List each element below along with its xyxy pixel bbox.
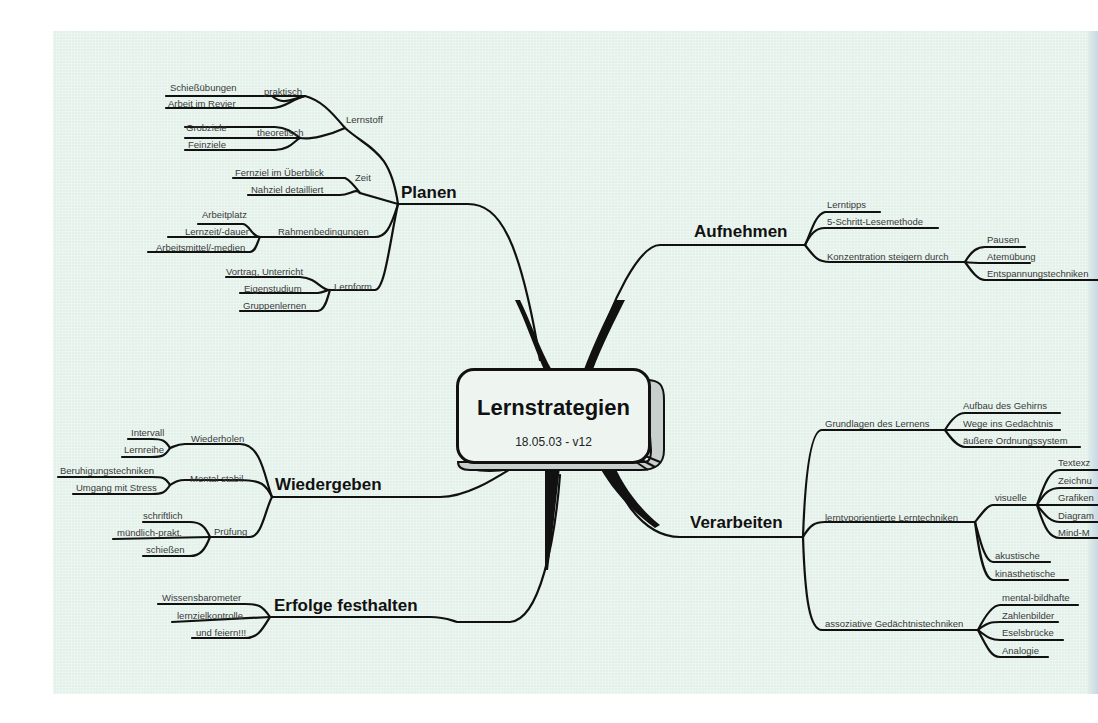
center-node[interactable]: Lernstrategien 18.05.03 - v12 [456,368,651,464]
leaf-und-feiern[interactable]: und feiern!!! [196,627,246,638]
leaf-arbeitsmittel[interactable]: Arbeitsmittel/-medien [156,242,245,253]
node-praktisch[interactable]: praktisch [264,86,302,97]
branch-wiedergeben[interactable]: Wiedergeben [275,475,382,495]
node-mental-stabil[interactable]: Mental stabil [190,473,243,484]
leaf-grobziele[interactable]: Grobziele [186,122,227,133]
leaf-kinaesthetische[interactable]: kinästhetische [995,568,1055,579]
leaf-lernzeit[interactable]: Lernzeit/-dauer [185,226,249,237]
leaf-mental-bildhafte[interactable]: mental-bildhafte [1002,592,1070,603]
leaf-pausen[interactable]: Pausen [987,234,1019,245]
leaf-muendlich[interactable]: mündlich-prakt. [117,527,182,538]
leaf-feinziele[interactable]: Feinziele [188,139,226,150]
leaf-atemuebung[interactable]: Atemübung [987,251,1036,262]
leaf-5-schritt[interactable]: 5-Schritt-Lesemethode [827,216,923,227]
branch-aufnehmen[interactable]: Aufnehmen [694,222,788,242]
leaf-fernziel[interactable]: Fernziel im Überblick [235,167,324,178]
leaf-arbeitplatz[interactable]: Arbeitplatz [202,209,247,220]
leaf-wissensbarometer[interactable]: Wissensbarometer [162,592,241,603]
leaf-schriftlich[interactable]: schriftlich [143,510,183,521]
leaf-lerntipps[interactable]: Lerntipps [827,199,866,210]
node-assoziativ[interactable]: assoziative Gedächtnistechniken [825,618,963,629]
branch-planen[interactable]: Planen [401,183,457,203]
node-zeit[interactable]: Zeit [355,172,371,183]
leaf-zeichnungen[interactable]: Zeichnu [1058,475,1092,486]
center-title: Lernstrategien [459,395,648,421]
branch-verarbeiten[interactable]: Verarbeiten [690,513,783,533]
node-theoretisch[interactable]: theoretisch [257,127,303,138]
leaf-wege-gedaechtnis[interactable]: Wege ins Gedächtnis [963,418,1053,429]
node-lernstoff[interactable]: Lernstoff [346,114,383,125]
node-grundlagen[interactable]: Grundlagen des Lernens [825,418,930,429]
node-pruefung[interactable]: Prüfung [214,526,247,537]
node-lerntyp[interactable]: lerntyporientierte Lerntechniken [825,512,958,523]
leaf-ordnungssystem[interactable]: äußere Ordnungssystem [963,435,1068,446]
leaf-arbeit-im-revier[interactable]: Arbeit im Revier [168,98,236,109]
leaf-schiessuebungen[interactable]: Schießübungen [170,82,237,93]
leaf-mind-maps[interactable]: Mind-M [1058,527,1090,538]
leaf-umgang-stress[interactable]: Umgang mit Stress [76,482,157,493]
node-konzentration[interactable]: Konzentration steigern durch [827,251,948,262]
node-lernform[interactable]: Lernform [334,281,372,292]
leaf-eselsbruecke[interactable]: Eselsbrücke [1002,627,1054,638]
leaf-beruhigung[interactable]: Beruhigungstechniken [60,465,154,476]
leaf-akustische[interactable]: akustische [995,550,1040,561]
leaf-intervall[interactable]: Intervall [131,427,164,438]
node-wiederholen[interactable]: Wiederholen [191,433,244,444]
center-subtitle: 18.05.03 - v12 [459,435,648,449]
leaf-textexzerpt[interactable]: Textexz [1058,457,1090,468]
leaf-zahlenbilder[interactable]: Zahlenbilder [1002,610,1054,621]
leaf-diagramme[interactable]: Diagram [1058,510,1094,521]
leaf-analogie[interactable]: Analogie [1002,645,1039,656]
mindmap-connectors [0,0,1098,723]
branch-erfolge-festhalten[interactable]: Erfolge festhalten [274,596,418,616]
leaf-lernreihe[interactable]: Lernreihe [124,444,164,455]
leaf-aufbau-gehirn[interactable]: Aufbau des Gehirns [963,400,1047,411]
node-visuelle[interactable]: visuelle [995,492,1027,503]
leaf-lernzielkontrolle[interactable]: lernzielkontrolle [177,610,243,621]
leaf-gruppenlernen[interactable]: Gruppenlernen [243,300,306,311]
leaf-schiessen[interactable]: schießen [146,544,185,555]
leaf-eigenstudium[interactable]: Eigenstudium [244,283,302,294]
leaf-nahziel[interactable]: Nahziel detailliert [251,184,323,195]
leaf-vortrag[interactable]: Vortrag, Unterricht [226,266,303,277]
leaf-grafiken[interactable]: Grafiken [1058,492,1094,503]
node-rahmenbedingungen[interactable]: Rahmenbedingungen [278,226,369,237]
leaf-entspannung[interactable]: Entspannungstechniken [987,268,1088,279]
